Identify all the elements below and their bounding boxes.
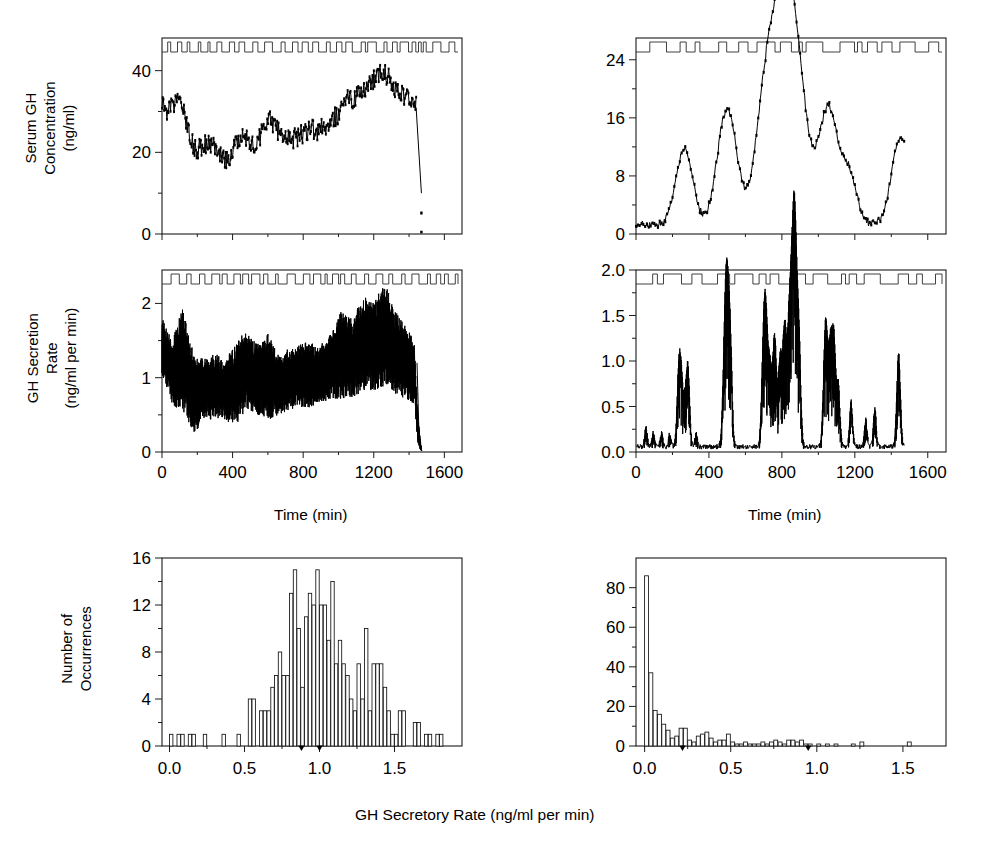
- svg-text:2.0: 2.0: [601, 261, 625, 280]
- svg-text:12: 12: [132, 596, 151, 615]
- svg-text:1.0: 1.0: [308, 759, 332, 778]
- svg-text:400: 400: [695, 463, 723, 482]
- svg-text:16: 16: [606, 109, 625, 128]
- occurrences-label-line2: Occurrences: [77, 569, 96, 729]
- serum-gh-label-line2: Concentration: [41, 43, 60, 213]
- serum-gh-left-plot: 02040: [100, 30, 470, 240]
- svg-text:0.5: 0.5: [233, 759, 257, 778]
- serum-gh-right-plot: 081624: [580, 30, 980, 240]
- secretion-rate-y-axis-label: GH Secretion Rate (ng/ml per min): [24, 268, 80, 448]
- secretion-label-line2: Rate: [43, 268, 62, 448]
- svg-text:40: 40: [132, 62, 151, 81]
- svg-text:2: 2: [142, 294, 151, 313]
- svg-text:1600: 1600: [425, 463, 463, 482]
- svg-text:0.0: 0.0: [601, 443, 625, 462]
- svg-text:0: 0: [157, 463, 166, 482]
- svg-text:400: 400: [218, 463, 246, 482]
- svg-text:40: 40: [606, 658, 625, 677]
- occurrences-label-line1: Number of: [58, 569, 77, 729]
- svg-text:4: 4: [142, 690, 151, 709]
- svg-text:8: 8: [616, 167, 625, 186]
- serum-gh-label-line3: (ng/ml): [59, 43, 78, 213]
- panel-serum-gh-left: 02040: [100, 30, 470, 240]
- occurrences-y-axis-label: Number of Occurrences: [58, 569, 96, 729]
- panel-histogram-left: 04812160.00.51.01.5: [100, 548, 470, 788]
- svg-text:0.0: 0.0: [158, 759, 182, 778]
- svg-text:1.0: 1.0: [805, 759, 829, 778]
- svg-text:1.5: 1.5: [383, 759, 407, 778]
- svg-text:1600: 1600: [909, 463, 947, 482]
- secretion-label-line1: GH Secretion: [24, 268, 43, 448]
- figure-bottom-caption: GH Secretory Rate (ng/ml per min): [355, 806, 594, 824]
- secretion-label-line3: (ng/ml per min): [61, 268, 80, 448]
- histogram-left-plot: 04812160.00.51.01.5: [100, 548, 470, 788]
- svg-text:1.5: 1.5: [891, 759, 915, 778]
- svg-text:20: 20: [606, 697, 625, 716]
- svg-text:8: 8: [142, 643, 151, 662]
- secretion-rate-right-plot: 0.00.51.01.52.0040080012001600: [580, 262, 980, 492]
- svg-text:800: 800: [768, 463, 796, 482]
- svg-text:0: 0: [142, 737, 151, 756]
- panel-secretion-rate-left: 012040080012001600: [100, 262, 470, 492]
- svg-text:1200: 1200: [836, 463, 874, 482]
- svg-text:1: 1: [142, 369, 151, 388]
- svg-text:0.0: 0.0: [633, 759, 657, 778]
- serum-gh-y-axis-label: Serum GH Concentration (ng/ml): [22, 43, 78, 213]
- svg-text:0.5: 0.5: [719, 759, 743, 778]
- serum-gh-label-line1: Serum GH: [22, 43, 41, 213]
- secretion-rate-left-plot: 012040080012001600: [100, 262, 470, 492]
- svg-text:0: 0: [142, 225, 151, 244]
- svg-text:80: 80: [606, 579, 625, 598]
- svg-text:0: 0: [616, 737, 625, 756]
- svg-text:0: 0: [142, 443, 151, 462]
- panel-histogram-right: 0204060800.00.51.01.5: [580, 548, 980, 788]
- gh-secretion-figure: Serum GH Concentration (ng/ml) 02040 081…: [0, 0, 986, 856]
- panel-secretion-rate-right: 0.00.51.01.52.0040080012001600: [580, 262, 980, 492]
- svg-text:0: 0: [631, 463, 640, 482]
- svg-text:0: 0: [616, 225, 625, 244]
- svg-text:60: 60: [606, 618, 625, 637]
- svg-text:1.5: 1.5: [601, 307, 625, 326]
- svg-text:20: 20: [132, 143, 151, 162]
- svg-text:16: 16: [132, 549, 151, 568]
- time-axis-label-left: Time (min): [274, 506, 347, 524]
- histogram-right-plot: 0204060800.00.51.01.5: [580, 548, 980, 788]
- svg-text:800: 800: [289, 463, 317, 482]
- svg-text:1200: 1200: [355, 463, 393, 482]
- svg-text:24: 24: [606, 51, 625, 70]
- panel-serum-gh-right: 081624: [580, 30, 980, 240]
- time-axis-label-right: Time (min): [748, 506, 821, 524]
- svg-text:1.0: 1.0: [601, 352, 625, 371]
- svg-text:0.5: 0.5: [601, 398, 625, 417]
